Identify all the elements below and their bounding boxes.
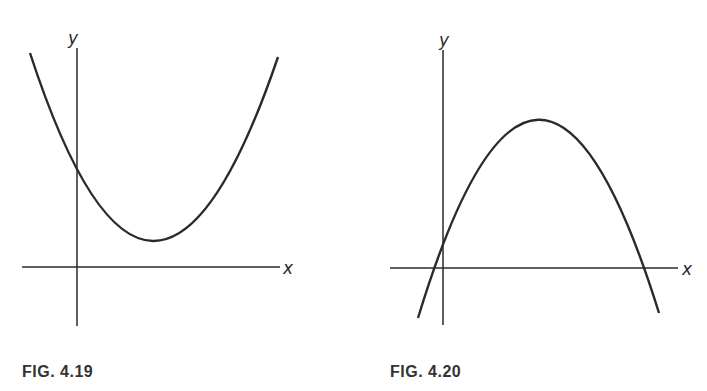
- fig419-y-label: y: [68, 30, 78, 47]
- fig419-x-label: x: [283, 260, 293, 277]
- fig420-x-label: x: [682, 261, 692, 278]
- fig419-caption: FIG. 4.19: [22, 363, 93, 381]
- fig420-y-label: y: [439, 32, 449, 49]
- fig420-caption: FIG. 4.20: [390, 363, 461, 381]
- fig420-parabola-curve: [418, 120, 659, 318]
- figure-4-19-plot: [0, 0, 707, 391]
- fig419-parabola-curve: [30, 53, 278, 241]
